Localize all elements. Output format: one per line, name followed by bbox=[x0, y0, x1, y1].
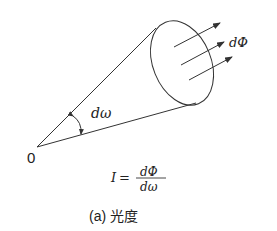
origin-label: 0 bbox=[27, 149, 35, 166]
flux-arrow-1 bbox=[174, 23, 220, 47]
flux-arrow-2 bbox=[181, 42, 224, 65]
formula-numerator: dΦ bbox=[140, 165, 158, 179]
luminous-intensity-diagram: dω dΦ 0 I = dΦ dω (a) 光度 bbox=[0, 0, 277, 231]
cone-lower-edge bbox=[37, 103, 196, 147]
solid-angle-label: dω bbox=[91, 105, 112, 121]
flux-label: dΦ bbox=[229, 35, 248, 50]
caption: (a) 光度 bbox=[89, 208, 138, 224]
solid-angle-arc-icon bbox=[73, 116, 81, 134]
intensity-formula: I = dΦ dω bbox=[110, 165, 166, 194]
cone-upper-edge bbox=[37, 28, 156, 147]
formula-equals: = bbox=[119, 170, 130, 185]
flux-arrow-3 bbox=[189, 57, 232, 80]
formula-denominator: dω bbox=[140, 180, 158, 194]
formula-lhs: I bbox=[110, 170, 117, 185]
